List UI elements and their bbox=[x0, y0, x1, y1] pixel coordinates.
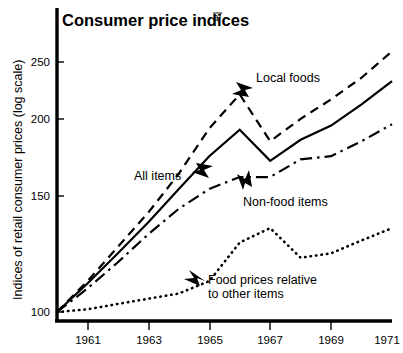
y-tick-label-200: 200 bbox=[31, 113, 50, 125]
x-tick-label-1961: 1961 bbox=[75, 334, 101, 346]
y-tick-label-100: 100 bbox=[31, 306, 50, 318]
y-tick-label-250: 250 bbox=[31, 56, 50, 68]
x-tick-label-1969: 1969 bbox=[318, 334, 344, 346]
annotation-all-items-label: All items bbox=[134, 169, 181, 183]
chart-background bbox=[0, 0, 403, 353]
y-tick-label-150: 150 bbox=[31, 190, 50, 202]
annotation-food-prices-line1: Food prices relative bbox=[208, 273, 317, 287]
x-tick-label-1971: 1971 bbox=[374, 334, 400, 346]
x-tick-label-1967: 1967 bbox=[257, 334, 283, 346]
annotation-non-food-items-label: Non-food items bbox=[243, 195, 328, 209]
x-tick-label-1965: 1965 bbox=[197, 334, 223, 346]
chart-title-superscript: a/ bbox=[213, 12, 222, 23]
x-tick-label-1963: 1963 bbox=[136, 334, 162, 346]
y-axis-label: Indices of retail consumer prices (log s… bbox=[11, 60, 25, 300]
annotation-food-prices-line2: to other items bbox=[208, 287, 284, 301]
annotation-local-foods-label: Local foods bbox=[256, 71, 320, 85]
chart-figure: Consumer price indices a/ Indices of ret… bbox=[0, 0, 403, 353]
consumer-price-indices-chart: Consumer price indices a/ Indices of ret… bbox=[0, 0, 403, 353]
